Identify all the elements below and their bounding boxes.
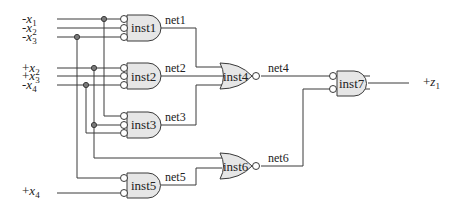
input-label-pos-x4: +x4 — [22, 183, 40, 200]
junction-dot — [74, 34, 79, 39]
junctions — [74, 16, 106, 127]
net-label-net2: net2 — [165, 61, 186, 75]
inversion-bubble — [121, 113, 128, 120]
inversion-bubble — [121, 82, 128, 89]
net-label-net3: net3 — [165, 110, 186, 124]
inversion-bubble — [253, 73, 260, 80]
gate-inst7: inst7 — [330, 71, 367, 96]
gate-inst2: inst2 — [121, 63, 162, 89]
gate-label: inst1 — [131, 20, 156, 35]
logic-circuit-diagram: -x1 -x2 -x3 +x2 +x3 -x4 +x4 — [0, 0, 460, 210]
gate-label: inst6 — [223, 159, 249, 174]
net-label-net1: net1 — [165, 13, 186, 27]
net-label-net5: net5 — [165, 170, 186, 184]
inversion-bubble — [121, 16, 128, 23]
gate-label: inst3 — [131, 117, 156, 132]
gate-label: inst4 — [223, 69, 249, 84]
gate-label: inst7 — [339, 76, 365, 91]
inversion-bubble — [330, 73, 337, 80]
net-label-net6: net6 — [268, 151, 289, 165]
gate-label: inst2 — [131, 69, 156, 84]
gate-inst3: inst3 — [121, 112, 162, 138]
input-labels: -x1 -x2 -x3 +x2 +x3 -x4 +x4 — [22, 11, 40, 200]
junction-dot — [91, 65, 96, 70]
inversion-bubble — [330, 86, 337, 93]
inversion-bubble — [121, 130, 128, 137]
inversion-bubble — [121, 122, 128, 129]
junction-dot — [91, 122, 96, 127]
gate-label: inst5 — [131, 178, 156, 193]
inversion-bubble — [121, 65, 128, 72]
wire-branch-neg-x3-to-inst5 — [77, 37, 120, 178]
gate-inst6: inst6 — [220, 153, 260, 179]
inversion-bubble — [121, 25, 128, 32]
gate-inst5: inst5 — [121, 173, 161, 198]
junction-dot — [83, 82, 88, 87]
inversion-bubble — [121, 73, 128, 80]
gate-inst1: inst1 — [121, 15, 162, 41]
inversion-bubble — [121, 34, 128, 41]
inversion-bubble — [121, 190, 128, 197]
gate-inst4: inst4 — [220, 63, 260, 89]
junction-dot — [101, 16, 106, 21]
net-label-net4: net4 — [268, 61, 289, 75]
inversion-bubble — [121, 175, 128, 182]
output-label-z1: +z1 — [423, 74, 440, 91]
inversion-bubble — [253, 163, 260, 170]
